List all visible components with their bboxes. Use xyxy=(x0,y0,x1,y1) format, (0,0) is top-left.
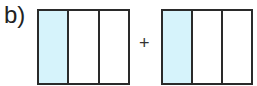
fraction-bar-1 xyxy=(37,9,130,85)
shaded-part xyxy=(39,11,67,83)
unshaded-part xyxy=(221,11,251,83)
unshaded-part xyxy=(98,11,128,83)
unshaded-part xyxy=(67,11,97,83)
problem-label: b) xyxy=(4,0,25,30)
fraction-bar-2 xyxy=(161,9,253,85)
unshaded-part xyxy=(191,11,221,83)
plus-sign: + xyxy=(139,33,150,53)
shaded-part xyxy=(163,11,191,83)
